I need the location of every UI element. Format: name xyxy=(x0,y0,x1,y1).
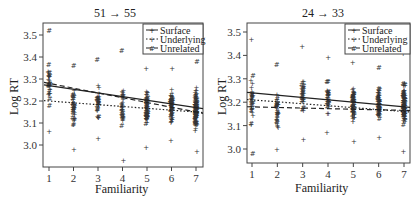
x-tick-label: 4 xyxy=(325,168,331,180)
data-point: + xyxy=(401,93,407,101)
x-tick-label: 3 xyxy=(300,168,306,180)
data-point: + xyxy=(194,110,200,118)
data-point: # xyxy=(249,107,255,115)
x-tick-label: 2 xyxy=(71,172,77,184)
data-point: + xyxy=(120,157,126,165)
legend-marker: + xyxy=(149,36,155,44)
scatter-plot-left: 3.03.13.23.33.43.51234567#++#+#+#+#+#+#+… xyxy=(0,0,207,206)
data-point: # xyxy=(46,102,52,110)
data-point: # xyxy=(119,47,125,55)
x-tick-label: 7 xyxy=(401,168,407,180)
data-point: + xyxy=(401,148,407,156)
data-point: # xyxy=(143,111,149,119)
legend-label-unrelated: Unrelated xyxy=(362,43,401,54)
data-point: + xyxy=(71,146,77,154)
legend-label-unrelated: Unrelated xyxy=(160,43,199,54)
data-point: # xyxy=(119,122,125,130)
data-point: + xyxy=(299,43,305,51)
data-point: + xyxy=(47,90,53,98)
data-point: + xyxy=(169,65,175,73)
chart-panel-left: 3.03.13.23.33.43.51234567#++#+#+#+#+#+#+… xyxy=(0,0,207,206)
panel-title: 24 → 33 xyxy=(302,6,344,21)
y-tick-label: 3.3 xyxy=(23,73,37,85)
data-point: + xyxy=(350,85,356,93)
chart-panel-right: 3.03.13.23.33.43.51234567+#++#+++##+##++… xyxy=(207,0,414,206)
x-tick-label: 2 xyxy=(275,168,281,180)
data-point: # xyxy=(301,82,307,90)
x-tick-label: 6 xyxy=(376,168,382,180)
legend-marker: # xyxy=(149,45,155,53)
data-point: + xyxy=(325,54,331,62)
legend: +Surface+Underlying#Unrelated xyxy=(143,24,206,54)
y-tick-label: 3.5 xyxy=(23,29,37,41)
data-point: + xyxy=(299,98,305,106)
data-point: + xyxy=(71,121,77,129)
data-point: # xyxy=(299,106,305,114)
data-point: # xyxy=(194,58,200,66)
data-point: + xyxy=(326,103,332,111)
data-point: + xyxy=(325,110,331,118)
data-point: # xyxy=(274,119,280,127)
y-tick-label: 3.4 xyxy=(23,51,37,63)
data-point: + xyxy=(324,129,330,137)
legend: +Surface+Underlying#Unrelated xyxy=(345,24,410,54)
data-point: + xyxy=(94,107,100,115)
data-point: # xyxy=(46,69,52,77)
data-point: + xyxy=(143,65,149,73)
panel-title: 51 → 55 xyxy=(94,6,136,21)
data-point: + xyxy=(376,134,382,142)
x-tick-label: 1 xyxy=(46,172,52,184)
x-axis-label: Familiarity xyxy=(295,181,348,196)
data-point: + xyxy=(301,136,307,144)
data-point: + xyxy=(95,135,101,143)
data-point: + xyxy=(248,36,254,44)
data-point: + xyxy=(274,146,280,154)
y-tick-label: 3.2 xyxy=(23,95,37,107)
x-tick-label: 5 xyxy=(351,168,357,180)
data-point: + xyxy=(326,90,332,98)
data-point: + xyxy=(168,137,174,145)
data-point: # xyxy=(194,99,200,107)
x-tick-label: 1 xyxy=(249,168,255,180)
y-axis-label: Log RT xyxy=(7,78,22,115)
data-point: + xyxy=(193,125,199,133)
legend-marker: + xyxy=(351,27,357,35)
data-point: + xyxy=(194,148,200,156)
data-point: + xyxy=(351,138,357,146)
legend-marker: # xyxy=(351,45,357,53)
data-point: # xyxy=(248,120,254,128)
x-tick-label: 6 xyxy=(169,172,175,184)
scatter-plot-right: 3.03.13.23.33.43.51234567+#++#+++##+##++… xyxy=(207,0,414,206)
data-point: # xyxy=(376,64,382,72)
data-point: # xyxy=(70,91,76,99)
y-tick-label: 3.1 xyxy=(23,117,37,129)
data-point: # xyxy=(250,150,256,158)
data-point: + xyxy=(249,80,255,88)
data-point: + xyxy=(95,82,101,90)
data-point: # xyxy=(325,78,331,86)
data-point: # xyxy=(376,86,382,94)
y-tick-label: 3.1 xyxy=(227,120,241,132)
data-point: + xyxy=(143,144,149,152)
x-axis-label: Familiarity xyxy=(95,182,148,197)
data-point: + xyxy=(350,59,356,67)
data-point: + xyxy=(46,128,52,136)
data-point: # xyxy=(94,56,100,64)
y-tick-label: 3.0 xyxy=(227,143,241,155)
x-tick-label: 7 xyxy=(193,172,199,184)
y-axis-label: Log RT xyxy=(215,78,230,115)
data-point: # xyxy=(46,61,52,69)
legend-marker: + xyxy=(149,27,155,35)
data-point: + xyxy=(377,96,383,104)
y-tick-label: 3.4 xyxy=(227,49,241,61)
data-point: # xyxy=(274,61,280,69)
data-point: # xyxy=(71,62,77,70)
legend-marker: + xyxy=(351,36,357,44)
data-point: + xyxy=(168,115,174,123)
data-point: + xyxy=(144,119,150,127)
y-tick-label: 3.0 xyxy=(23,139,37,151)
data-point: # xyxy=(250,72,256,80)
data-point: # xyxy=(46,27,52,35)
y-tick-label: 3.5 xyxy=(227,26,241,38)
